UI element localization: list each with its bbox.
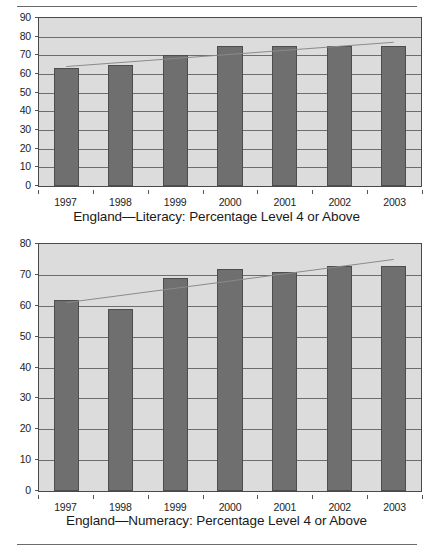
x-axis-tick xyxy=(257,495,258,499)
y-axis-tick-label: 80 xyxy=(20,30,31,41)
x-axis-labels-literacy: 1997199819992000200120022003 xyxy=(38,190,422,210)
x-axis-tick xyxy=(148,495,149,499)
caption-literacy: England—Literacy: Percentage Level 4 or … xyxy=(0,210,433,225)
x-axis-tick xyxy=(367,190,368,194)
y-axis-tick-label: 40 xyxy=(20,361,31,372)
y-axis-tick-label: 60 xyxy=(20,68,31,79)
x-axis-tick-label: 2000 xyxy=(219,197,242,208)
y-axis-tick-label: 30 xyxy=(20,124,31,135)
bar-1997 xyxy=(54,68,79,186)
top-divider-rule xyxy=(17,6,417,7)
x-axis-tick-label: 1997 xyxy=(54,502,77,513)
y-axis-tick-label: 30 xyxy=(20,392,31,403)
x-axis-tick-label: 1998 xyxy=(109,197,132,208)
y-axis-tick-label: 80 xyxy=(20,238,31,249)
x-axis-tick xyxy=(422,495,423,499)
x-axis-tick-label: 1997 xyxy=(54,197,77,208)
figure-page: 0102030405060708090 19971998199920002001… xyxy=(0,0,433,552)
x-axis-tick xyxy=(422,190,423,194)
y-axis-tick-label: 0 xyxy=(25,180,31,191)
y-axis-tick-label: 70 xyxy=(20,49,31,60)
y-axis-tick-label: 20 xyxy=(20,142,31,153)
y-axis-tick-label: 90 xyxy=(20,12,31,23)
bottom-divider-rule xyxy=(17,544,417,545)
x-axis-tick xyxy=(203,495,204,499)
plot-canvas-literacy xyxy=(38,17,422,187)
bar-1999 xyxy=(163,278,188,491)
y-axis-labels-literacy: 0102030405060708090 xyxy=(5,14,35,189)
x-axis-tick xyxy=(257,190,258,194)
x-axis-tick-label: 1999 xyxy=(164,502,187,513)
y-axis-tick-label: 20 xyxy=(20,423,31,434)
y-axis-tick-label: 10 xyxy=(20,454,31,465)
x-axis-tick xyxy=(93,495,94,499)
bar-2003 xyxy=(381,266,406,491)
gridline xyxy=(39,37,421,38)
bar-2001 xyxy=(272,272,297,491)
plot-area-numeracy: 01020304050607080 xyxy=(5,240,423,494)
x-axis-tick-label: 1998 xyxy=(109,502,132,513)
x-axis-tick xyxy=(367,495,368,499)
y-axis-tick-label: 70 xyxy=(20,269,31,280)
bar-1998 xyxy=(108,309,133,491)
x-axis-tick xyxy=(203,190,204,194)
bar-2002 xyxy=(327,266,352,491)
x-axis-tick-label: 2003 xyxy=(383,197,406,208)
bar-2002 xyxy=(327,46,352,186)
x-axis-tick xyxy=(312,190,313,194)
x-axis-tick-label: 2002 xyxy=(328,502,351,513)
bar-2000 xyxy=(217,46,242,186)
bar-2001 xyxy=(272,46,297,186)
y-axis-tick-label: 40 xyxy=(20,105,31,116)
bar-1998 xyxy=(108,65,133,186)
chart-literacy: 0102030405060708090 19971998199920002001… xyxy=(0,14,433,214)
bar-2000 xyxy=(217,269,242,491)
x-axis-tick-label: 2001 xyxy=(274,197,297,208)
plot-canvas-numeracy xyxy=(38,243,422,492)
x-axis-tick-label: 2001 xyxy=(274,502,297,513)
y-axis-tick-label: 0 xyxy=(25,485,31,496)
y-axis-labels-numeracy: 01020304050607080 xyxy=(5,240,35,494)
x-axis-tick-label: 2000 xyxy=(219,502,242,513)
x-axis-tick-label: 1999 xyxy=(164,197,187,208)
y-axis-tick-label: 50 xyxy=(20,330,31,341)
bar-1997 xyxy=(54,300,79,491)
bar-2003 xyxy=(381,46,406,186)
x-axis-tick xyxy=(38,495,39,499)
x-axis-tick xyxy=(148,190,149,194)
x-axis-tick-label: 2003 xyxy=(383,502,406,513)
y-axis-tick-label: 60 xyxy=(20,300,31,311)
chart-numeracy: 01020304050607080 1997199819992000200120… xyxy=(0,240,433,535)
x-axis-tick xyxy=(93,190,94,194)
y-axis-tick-label: 50 xyxy=(20,86,31,97)
x-axis-tick-label: 2002 xyxy=(328,197,351,208)
y-axis-tick-label: 10 xyxy=(20,161,31,172)
x-axis-tick xyxy=(312,495,313,499)
x-axis-tick xyxy=(38,190,39,194)
plot-area-literacy: 0102030405060708090 xyxy=(5,14,423,189)
x-axis-labels-numeracy: 1997199819992000200120022003 xyxy=(38,495,422,515)
bar-1999 xyxy=(163,55,188,186)
caption-numeracy: England—Numeracy: Percentage Level 4 or … xyxy=(0,514,433,529)
